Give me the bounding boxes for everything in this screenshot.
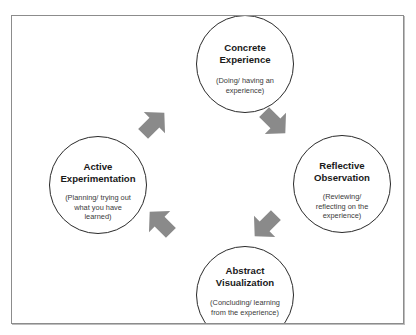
node-desc-line: from the experience) xyxy=(201,308,289,318)
node-desc-line: experience) xyxy=(304,211,380,221)
node-title-line: Reflective xyxy=(298,160,386,172)
node-desc-line: (Reviewing/ xyxy=(304,192,380,202)
node-desc-line: (Concluding/ learning xyxy=(201,298,289,308)
node-desc-line: (Planning/ trying out xyxy=(54,193,142,203)
node-desc-line: reflecting on the xyxy=(304,202,380,212)
node-title-line: Experimentation xyxy=(51,173,145,185)
node-title-line: Experience xyxy=(201,54,289,66)
node-title-line: Observation xyxy=(298,172,386,184)
node-title-line: Active xyxy=(51,161,145,173)
node-title: Reflective Observation xyxy=(294,160,390,184)
node-desc-line: learned) xyxy=(54,212,142,222)
arrow-active-to-concrete-icon xyxy=(132,102,174,144)
diagram-frame: Concrete Experience (Doing/ having an ex… xyxy=(11,15,404,324)
node-description: (Planning/ trying out what you have lear… xyxy=(50,193,146,222)
node-title-line: Visualization xyxy=(201,277,289,289)
node-desc-line: what you have xyxy=(54,203,142,213)
node-title: Abstract Visualization xyxy=(197,265,293,289)
node-desc-line: experience) xyxy=(207,86,283,96)
node-title: Active Experimentation xyxy=(50,161,146,185)
node-desc-line: (Doing/ having an xyxy=(207,76,283,86)
node-description: (Doing/ having an experience) xyxy=(197,76,293,95)
node-reflective-observation: Reflective Observation (Reviewing/ refle… xyxy=(293,135,391,233)
arrow-reflective-to-abstract-icon xyxy=(244,204,286,246)
node-description: (Concluding/ learning from the experienc… xyxy=(197,298,293,317)
node-title: Concrete Experience xyxy=(197,42,293,66)
node-description: (Reviewing/ reflecting on the experience… xyxy=(294,192,390,221)
node-title-line: Concrete xyxy=(201,42,289,54)
node-concrete-experience: Concrete Experience (Doing/ having an ex… xyxy=(196,15,294,113)
node-active-experimentation: Active Experimentation (Planning/ trying… xyxy=(49,136,147,234)
node-title-line: Abstract xyxy=(201,265,289,277)
